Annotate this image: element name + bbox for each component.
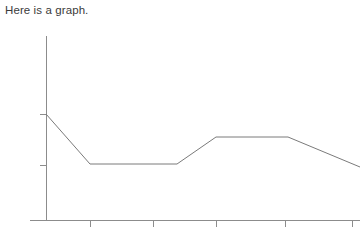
data-series-line — [46, 114, 360, 167]
chart-axes — [30, 36, 360, 220]
y-axis-ticks — [40, 114, 46, 165]
page-root: Here is a graph. — [0, 0, 360, 243]
chart-svg — [0, 0, 360, 243]
x-axis-ticks — [90, 220, 352, 227]
line-chart-figure — [0, 0, 360, 243]
